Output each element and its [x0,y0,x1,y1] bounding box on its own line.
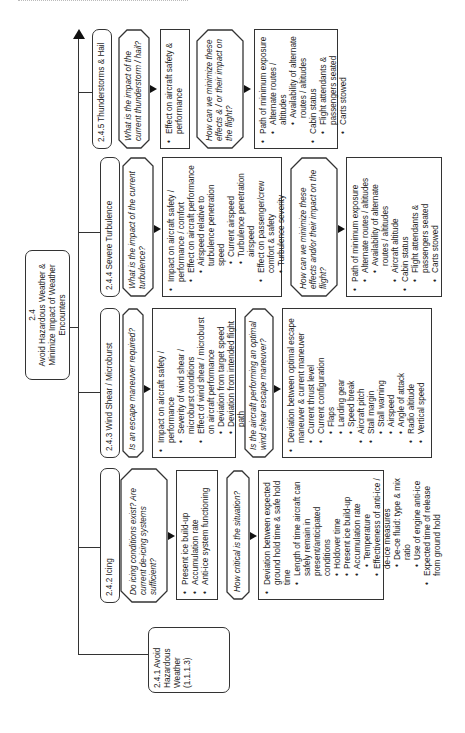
detail-item: Radio altitude [407,314,417,452]
subgoal-2-4-3-header: 2.4.3 Wind Shear / Microburst [100,308,120,458]
turbulence-detail-2: Path of minimum exposure Alternate route… [346,157,442,297]
detail-item: Alternate routes / altitudes [269,35,289,143]
detail-item: Expected time of release from ground hol… [423,476,443,594]
detail-item: Airspeed [387,314,397,452]
detail-item: Angle of attack [397,314,407,452]
detail-item: Carts stowed [431,163,441,291]
icing-question-2: How critical is the situation? [226,470,250,600]
detail-item: Effect of wind shear / microburst on air… [197,314,217,452]
detail-item: Path of minimum exposure [351,163,361,291]
detail-item: Current configuration [317,314,327,452]
thunderstorm-detail-1: Effect on aircraft safety & performance [160,29,190,149]
subgoal-2-4-2-label: 2.4.2 Icing [105,558,115,596]
subgoal-2-4-2-header: 2.4.2 Icing [100,468,120,603]
detail-item: Use of engine anti-ice [413,476,423,594]
detail-item: Aircraft altitude [391,163,401,291]
bus-arrow-icon [73,29,85,39]
root-goal-number: 2.4 [28,309,38,320]
detail-item: Length of time aircraft can safely remai… [293,476,333,594]
detail-item: Deviation between optimal escape maneuve… [287,314,307,452]
icing-detail-1: Present ice build-up Accumulation rate A… [176,470,218,600]
arrow-down-icon [168,532,175,540]
thunderstorm-question-2: How can we minimize these effects & / or… [196,29,244,149]
turbulence-detail-1: Impact on aircraft safety / performance … [162,157,282,297]
turbulence-question-1: What is the impact of the current turbul… [122,157,154,297]
subgoal-2-4-1-label: 2.4.1 Avoid Hazardous Weather (1.1.1.3) [153,632,193,688]
subgoal-2-4-4-label: 2.4.4 Severe Turbulence [105,201,115,290]
subgoal-2-4-5-label: 2.4.5 Thunderstorms & Hail [97,42,107,142]
detail-item: Temperature [363,476,373,594]
windshear-detail-2: Deviation between optimal escape maneuve… [282,308,432,458]
subgoal-2-4-5-header: 2.4.5 Thunderstorms & Hail [92,29,112,149]
detail-item: Deviation from target speed [217,314,227,452]
detail-item: Cabin status [401,163,411,291]
detail-item: Landing gear [337,314,347,452]
thunderstorm-detail-2: Path of minimum exposure Alternate route… [254,29,338,149]
detail-item: Impact on aircraft safety / performance … [167,163,187,291]
arrow-down-icon [150,85,157,93]
detail-item: Effect on passenger/crew comfort & safet… [257,163,277,291]
detail-item: Severity of wind shear / microburst cond… [177,314,197,452]
detail-item: Airspeed relative to turbulence penetrat… [197,163,227,291]
detail-item: Holdover time [333,476,343,594]
turbulence-question-1-text: What is the impact of the current turbul… [128,165,148,289]
thunderstorm-question-2-text: How can we minimize these effects & / or… [205,37,235,141]
arrow-down-icon [250,532,257,540]
bus-drop-2-4-4 [78,232,100,233]
root-goal-box: 2.4 Avoid Hazardous Weather & Minimize I… [25,250,70,380]
windshear-question-1: Is an escape maneuver required? [122,308,144,458]
horizontal-bus [78,39,79,655]
detail-item: Vertical speed [417,314,427,452]
windshear-question-1-text: Is an escape maneuver required? [128,328,138,450]
detail-item: Effect on aircraft safety & performance [165,35,185,143]
goal-decomposition-diagram: 2.4 Avoid Hazardous Weather & Minimize I… [0,0,465,733]
detail-item: De-ce fluid: type & mix ratio [393,476,413,594]
detail-item: Current airspeed [227,163,237,291]
detail-item: Present ice build-up [343,476,353,594]
windshear-question-2: Is the aircraft performing an optimal wi… [244,308,274,458]
arrow-down-icon [274,385,281,393]
detail-item: Effectiveness of anti-ice / de-ice measu… [373,476,393,594]
icing-question-1: Do icing conditions exist? Are current d… [120,468,168,603]
windshear-question-2-text: Is the aircraft performing an optimal wi… [249,316,269,450]
detail-item: Turbulence severity [277,163,287,291]
detail-item: Accumulation rate [353,476,363,594]
subgoal-2-4-1-box: 2.4.1 Avoid Hazardous Weather (1.1.1.3) [148,627,230,693]
arrow-down-icon [144,385,151,393]
detail-item: Flight attendants & passengers seated [319,35,339,143]
icing-detail-2: Deviation between expected ground hold t… [258,470,384,600]
arrow-down-icon [154,225,161,233]
bus-drop-2-4-2 [78,547,100,548]
windshear-detail-1: Impact on aircraft safety / performance … [152,308,236,458]
detail-item: Stall margin [367,314,377,452]
detail-item: Carts stowed [339,35,349,143]
turbulence-question-2: How can we minimize these effects and/or… [290,157,338,297]
detail-item: Anti-ice system functioning [201,476,211,594]
detail-item: Impact on aircraft safety / performance [157,314,177,452]
root-goal-title: Avoid Hazardous Weather & Minimize Impac… [38,251,68,379]
detail-item: Present ice build-up [181,476,191,594]
detail-item: Path of minimum exposure [259,35,269,143]
detail-item: Availability of alternate routes / altit… [371,163,391,291]
arrow-down-icon [338,225,345,233]
arrow-down-icon [244,85,251,93]
detail-item: Availability of alternate routes / altit… [289,35,309,143]
detail-item: Flaps [327,314,337,452]
detail-item: Turbulence penetration airspeed [237,163,257,291]
subgoal-2-4-4-header: 2.4.4 Severe Turbulence [100,157,120,297]
detail-item: Stall warning [377,314,387,452]
icing-question-1-text: Do icing conditions exist? Are current d… [129,476,159,595]
detail-item: Accumulation rate [191,476,201,594]
icing-question-2-text: How critical is the situation? [233,491,243,592]
detail-item: Cabin status [309,35,319,143]
subgoal-2-4-3-label: 2.4.3 Wind Shear / Microburst [105,343,115,451]
thunderstorm-question-1: What is the impact of the current thunde… [118,29,150,149]
turbulence-question-2-text: How can we minimize these effects and/or… [299,165,329,289]
bus-drop-2-4-3 [78,392,100,393]
detail-item: Flight attendants & passengers seated [411,163,431,291]
thunderstorm-question-1-text: What is the impact of the current thunde… [124,37,144,141]
detail-item: Speed break [347,314,357,452]
detail-item: Effect on aircraft performance [187,163,197,291]
detail-item: Alternate routes / altitudes [361,163,371,291]
root-stem [70,327,78,328]
